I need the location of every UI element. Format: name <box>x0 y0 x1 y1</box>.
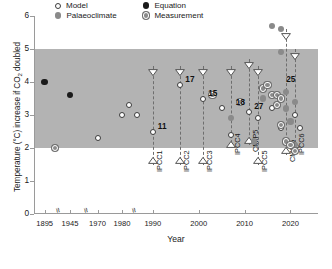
legend-row: Palaeoclimate Measurement <box>55 11 255 20</box>
x-tick <box>98 210 99 214</box>
range-upper-triangle-icon <box>198 62 208 80</box>
point-annotation: 11 <box>158 122 167 131</box>
data-point-model <box>246 109 252 115</box>
data-point-measurement <box>287 142 293 148</box>
figure-root: Temperature (°C) increase if CO2 doubled… <box>0 0 332 269</box>
x-tick-label: 2000 <box>179 219 219 228</box>
legend-item-measurement: Measurement <box>143 11 203 20</box>
range-label: IPCC6 <box>297 134 306 156</box>
legend-item-equation: Equation <box>143 1 186 10</box>
range-label: IPCC3 <box>205 150 214 172</box>
data-point-palaeoclimate <box>283 105 289 111</box>
y-tick-label: 6 <box>16 10 29 20</box>
plot-area: 0123456 18951945197019801990200020102020… <box>34 16 318 214</box>
data-point-measurement <box>52 145 58 151</box>
point-annotation: 17 <box>185 75 194 84</box>
x-tick <box>70 210 71 214</box>
data-point-model <box>119 112 125 118</box>
data-point-model <box>200 96 206 102</box>
data-point-palaeoclimate <box>287 118 293 124</box>
legend-row: Model Equation <box>55 1 255 10</box>
range-label: IPCC4 <box>233 134 242 156</box>
y-tick <box>30 115 34 116</box>
equation-marker-icon <box>143 2 149 8</box>
x-tick <box>290 210 291 214</box>
model-marker-icon <box>55 3 61 9</box>
y-tick <box>30 82 34 83</box>
y-tick-label: 5 <box>16 43 29 53</box>
x-tick <box>153 210 154 214</box>
legend-item-palaeoclimate: Palaeoclimate <box>55 11 143 20</box>
y-tick-label: 3 <box>16 109 29 119</box>
data-point-model <box>297 125 303 131</box>
range-upper-triangle-icon <box>148 62 158 80</box>
range-label: IPCC2 <box>182 150 191 172</box>
data-point-palaeoclimate <box>283 89 289 95</box>
measurement-marker-icon <box>143 12 149 18</box>
x-tick-label: 1990 <box>133 219 173 228</box>
point-annotation: 25 <box>286 75 295 84</box>
y-tick <box>30 181 34 182</box>
range-upper-triangle-icon <box>290 46 300 64</box>
data-point-model <box>134 112 140 118</box>
point-annotation: 27 <box>254 102 263 111</box>
y-tick <box>30 16 34 17</box>
x-tick-label: 2020 <box>270 219 310 228</box>
y-axis-line <box>34 16 35 214</box>
x-tick <box>245 210 246 214</box>
point-annotation: 18 <box>236 98 245 107</box>
data-point-equation <box>41 79 47 85</box>
x-tick <box>122 210 123 214</box>
data-point-model <box>150 129 156 135</box>
data-point-palaeoclimate <box>251 138 257 144</box>
range-label: IPCC1 <box>155 150 164 172</box>
y-tick <box>30 148 34 149</box>
data-point-model <box>292 112 298 118</box>
range-label: IPCC5 <box>260 150 269 172</box>
data-point-model <box>228 132 234 138</box>
data-point-palaeoclimate <box>269 23 275 29</box>
range-upper-triangle-icon <box>226 62 236 80</box>
x-tick <box>199 210 200 214</box>
y-tick-label: 0 <box>16 208 29 218</box>
x-axis-title: Year <box>34 234 318 244</box>
x-tick-label: 2010 <box>225 219 265 228</box>
legend-label: Measurement <box>154 11 203 20</box>
range-upper-triangle-icon <box>175 62 185 80</box>
range-upper-triangle-icon <box>253 62 263 80</box>
y-tick-label: 1 <box>16 175 29 185</box>
data-point-model <box>95 135 101 141</box>
y-tick <box>30 214 34 215</box>
x-axis-line <box>34 213 318 214</box>
legend-item-model: Model <box>55 1 143 10</box>
y-tick-label: 2 <box>16 142 29 152</box>
y-tick <box>30 49 34 50</box>
legend-label: Equation <box>154 1 186 10</box>
legend-label: Palaeoclimate <box>66 11 116 20</box>
legend-label: Model <box>66 1 88 10</box>
palaeoclimate-marker-icon <box>55 12 61 18</box>
point-annotation: 15 <box>208 89 217 98</box>
y-tick-label: 4 <box>16 76 29 86</box>
x-tick <box>45 210 46 214</box>
legend: Model Equation Palaeoclimate Measurement <box>55 1 255 21</box>
